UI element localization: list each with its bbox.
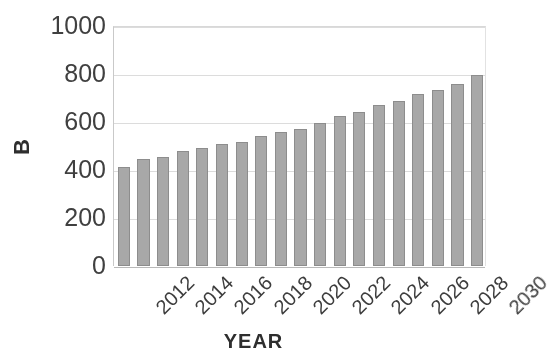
y-axis-tick-labels: 02004006008001000	[8, 0, 106, 360]
bar	[157, 157, 169, 266]
x-axis-tick-label: 2022	[348, 272, 394, 318]
bar	[137, 159, 149, 266]
bar	[294, 129, 306, 266]
bar	[177, 151, 189, 266]
x-axis-tick-label: 2016	[230, 272, 276, 318]
bar	[432, 90, 444, 266]
bar	[118, 167, 130, 266]
bar-series	[114, 27, 485, 266]
bar	[334, 116, 346, 266]
bar	[314, 123, 326, 266]
plot-area	[113, 26, 486, 266]
x-axis-tick-label: 2026	[427, 272, 473, 318]
bar	[275, 132, 287, 266]
bar	[451, 84, 463, 266]
bar	[236, 142, 248, 266]
bar	[393, 101, 405, 266]
y-axis-tick-label: 400	[8, 157, 106, 182]
y-axis-title: B	[9, 139, 35, 155]
x-axis-tick-label: 2014	[191, 272, 237, 318]
bar	[412, 94, 424, 266]
y-axis-tick-label: 600	[8, 109, 106, 134]
bar	[216, 144, 228, 266]
x-axis-tick-label: 2028	[466, 272, 512, 318]
x-axis-tick-label: 2024	[387, 272, 433, 318]
bar	[196, 148, 208, 266]
y-axis-tick-label: 0	[8, 253, 106, 278]
y-axis-tick-label: 200	[8, 205, 106, 230]
x-axis-tick-label: 2020	[309, 272, 355, 318]
x-axis-tick-labels: 2012201420162018202020222024202620282030	[113, 266, 486, 326]
x-axis-tick-label: 2012	[152, 272, 198, 318]
y-axis-tick-label: 800	[8, 61, 106, 86]
x-axis-tick-label: 2030	[505, 272, 551, 318]
bar	[353, 112, 365, 266]
x-axis-title: YEAR	[0, 330, 507, 353]
y-axis-tick-label: 1000	[8, 13, 106, 38]
bar	[373, 105, 385, 266]
bar	[471, 75, 483, 266]
x-axis-tick-label: 2018	[270, 272, 316, 318]
bar	[255, 136, 267, 266]
